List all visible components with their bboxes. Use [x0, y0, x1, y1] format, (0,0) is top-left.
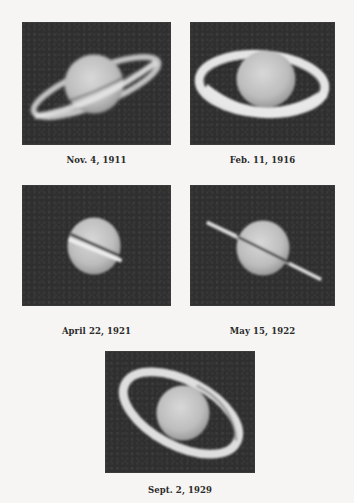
- saturn-image-icon: [191, 186, 334, 305]
- saturn-image-icon: [23, 23, 170, 144]
- saturn-photo-1921: [22, 185, 171, 306]
- caption-1929: Sept. 2, 1929: [105, 485, 255, 495]
- saturn-image-icon: [23, 186, 170, 305]
- caption-1922: May 15, 1922: [190, 326, 335, 336]
- saturn-photo-1916: [190, 22, 335, 145]
- caption-1916: Feb. 11, 1916: [190, 155, 335, 165]
- saturn-image-icon: [191, 23, 334, 144]
- saturn-image-icon: [106, 352, 254, 472]
- caption-1911: Nov. 4, 1911: [22, 155, 171, 165]
- saturn-photo-1922: [190, 185, 335, 306]
- saturn-photo-1929: [105, 351, 255, 473]
- caption-1921: April 22, 1921: [22, 326, 171, 336]
- saturn-photo-1911: [22, 22, 171, 145]
